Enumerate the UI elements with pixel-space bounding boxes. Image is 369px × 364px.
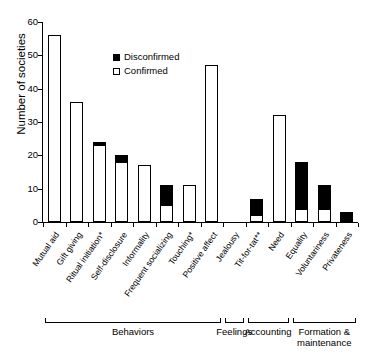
y-tick-label: 50: [14, 50, 38, 59]
x-tick-mark: [201, 223, 202, 227]
x-tick-mark: [223, 223, 224, 227]
group-bracket: [293, 318, 357, 323]
x-tick-mark: [358, 223, 359, 227]
legend: Disconfirmed Confirmed: [113, 50, 179, 78]
y-tick-label: 30: [14, 117, 38, 126]
bar: [250, 22, 263, 222]
bar-segment-confirmed: [183, 185, 196, 222]
bar-segment-confirmed: [115, 162, 128, 222]
legend-item-disconfirmed: Disconfirmed: [113, 50, 179, 64]
group-label: Accounting: [240, 326, 296, 337]
legend-label-disconfirmed: Disconfirmed: [124, 50, 179, 64]
bar: [93, 22, 106, 222]
y-tick-label: 10: [14, 184, 38, 193]
bar: [70, 22, 83, 222]
bar-segment-confirmed: [93, 145, 106, 222]
x-tick-mark: [313, 223, 314, 227]
x-tick-mark: [178, 223, 179, 227]
open-square-icon: [113, 68, 120, 75]
bar: [295, 22, 308, 222]
x-tick-mark: [133, 223, 134, 227]
bar-segment-confirmed: [318, 209, 331, 222]
legend-item-confirmed: Confirmed: [113, 64, 179, 78]
bar: [340, 22, 353, 222]
bar-segment-confirmed: [250, 215, 263, 222]
group-label: Behaviors: [45, 326, 221, 337]
filled-square-icon: [113, 54, 120, 61]
bar: [318, 22, 331, 222]
x-tick-mark: [291, 223, 292, 227]
bar-segment-disconfirmed: [295, 162, 308, 209]
bar-segment-disconfirmed: [250, 199, 263, 216]
x-tick-mark: [156, 223, 157, 227]
bar: [183, 22, 196, 222]
legend-label-confirmed: Confirmed: [124, 64, 168, 78]
bar-segment-confirmed: [295, 209, 308, 222]
x-tick-mark: [111, 223, 112, 227]
bar-segment-confirmed: [273, 115, 286, 222]
bar: [205, 22, 218, 222]
group-label: Formation & maintenance: [293, 326, 357, 348]
y-tick-label: 0: [14, 217, 38, 226]
y-tick-label: 20: [14, 150, 38, 159]
x-tick-mark: [246, 223, 247, 227]
x-tick-mark: [43, 223, 44, 227]
x-tick-mark: [336, 223, 337, 227]
group-bracket: [225, 318, 244, 323]
bar-segment-confirmed: [70, 102, 83, 222]
x-tick-mark: [88, 223, 89, 227]
x-category-label: Need: [266, 230, 286, 253]
bar-segment-disconfirmed: [318, 185, 331, 208]
bar-segment-confirmed: [205, 65, 218, 222]
bar: [273, 22, 286, 222]
bar-chart: Number of societies 0102030405060 Discon…: [0, 0, 369, 364]
bar-segment-disconfirmed: [115, 155, 128, 162]
bar-segment-disconfirmed: [93, 142, 106, 145]
plot-area: [43, 22, 358, 222]
bar-segment-confirmed: [160, 205, 173, 222]
y-tick-label: 40: [14, 84, 38, 93]
x-tick-mark: [66, 223, 67, 227]
group-bracket: [45, 318, 221, 323]
bar-segment-disconfirmed: [160, 185, 173, 205]
group-bracket: [248, 318, 289, 323]
bar-segment-confirmed: [48, 35, 61, 222]
bar-segment-disconfirmed: [340, 212, 353, 222]
bar: [48, 22, 61, 222]
x-tick-mark: [268, 223, 269, 227]
bar-segment-confirmed: [138, 165, 151, 222]
y-tick-label: 60: [14, 17, 38, 26]
